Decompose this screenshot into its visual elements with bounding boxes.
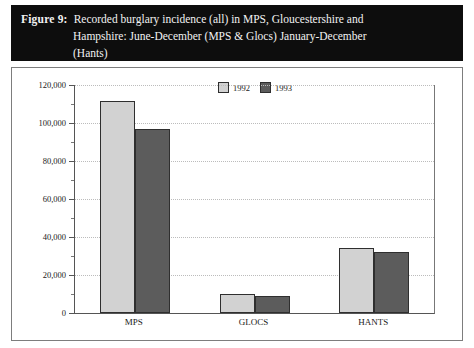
caption-line-1: Figure 9:Recorded burglary incidence (al…	[21, 11, 455, 28]
y-axis-tick-label: 100,000	[20, 118, 66, 128]
x-axis-label-hants: HANTS	[358, 317, 388, 327]
x-axis-label-glocs: GLOCS	[239, 317, 269, 327]
bar-mps-1992	[100, 101, 135, 313]
y-axis-tick-label: 40,000	[20, 232, 66, 242]
y-axis-tick-label: 60,000	[20, 194, 66, 204]
y-axis-tick-label: 120,000	[20, 80, 66, 90]
caption-line-3: (Hants)	[21, 45, 455, 62]
plot-area	[74, 85, 435, 314]
y-axis: 020,00040,00060,00080,000100,000120,000	[0, 85, 74, 314]
caption-text-line-1: Recorded burglary incidence (all) in MPS…	[74, 13, 364, 25]
bar-mps-1993	[135, 129, 170, 313]
bar-glocs-1993	[255, 296, 290, 313]
y-axis-tick-label: 20,000	[20, 270, 66, 280]
bar-hants-1993	[374, 252, 409, 313]
figure-number-label: Figure 9:	[21, 13, 68, 25]
bar-glocs-1992	[220, 294, 255, 313]
y-axis-tick-label: 80,000	[20, 156, 66, 166]
bar-hants-1992	[339, 248, 374, 313]
caption-line-2: Hampshire: June-December (MPS & Glocs) J…	[21, 28, 455, 45]
figure-page: Figure 9:Recorded burglary incidence (al…	[0, 0, 474, 348]
bars-layer	[75, 85, 434, 313]
y-axis-tick-label: 0	[20, 308, 66, 318]
figure-caption-banner: Figure 9:Recorded burglary incidence (al…	[11, 5, 463, 61]
x-axis-label-mps: MPS	[125, 317, 143, 327]
